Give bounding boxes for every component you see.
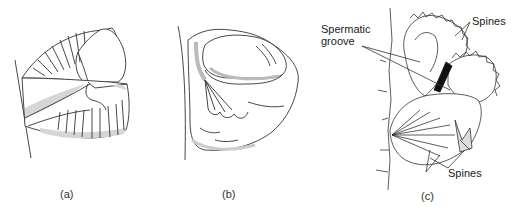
- panel-b-drawing: [178, 26, 298, 160]
- panel-b-caption: (b): [222, 188, 235, 200]
- diagram-canvas: [0, 0, 519, 213]
- spermatic-groove-label-line1: Spermatic: [321, 23, 371, 35]
- panel-c-caption: (c): [421, 190, 434, 202]
- panel-a-drawing: [15, 28, 129, 158]
- spines-bottom-label: Spines: [448, 167, 482, 179]
- spermatic-groove-label-line2: groove: [321, 35, 371, 47]
- panel-a-caption: (a): [60, 188, 73, 200]
- panel-c-drawing: [362, 8, 500, 190]
- spines-top-label: Spines: [472, 15, 506, 27]
- spermatic-groove-label: Spermatic groove: [321, 23, 371, 47]
